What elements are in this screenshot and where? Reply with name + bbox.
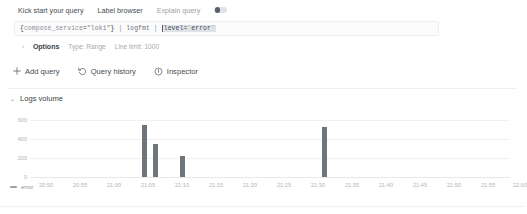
query-options-row: › Options Type: Range Line limit: 1000	[10, 40, 515, 52]
x-axis-tick: 21:55	[481, 182, 495, 188]
x-axis-tick: 21:45	[413, 182, 427, 188]
add-query-button[interactable]: Add query	[12, 67, 60, 76]
plus-icon	[12, 67, 21, 76]
chevron-right-icon[interactable]: ›	[22, 43, 24, 49]
x-axis-tick: 21:25	[277, 182, 291, 188]
query-editor-panel: Kick start your query Label browser Expl…	[10, 2, 515, 79]
query-selected-text[interactable]: level=`error`	[162, 25, 216, 32]
y-axis-tick: 600	[18, 117, 27, 123]
query-actions-row: Add query Query history	[10, 63, 515, 79]
info-circle-icon	[154, 67, 163, 76]
x-axis-tick: 21:20	[243, 182, 257, 188]
inspector-label: Inspector	[167, 67, 198, 76]
logs-volume-title: Logs volume	[20, 94, 63, 103]
chevron-down-icon[interactable]: ⌄	[10, 96, 15, 102]
query-pipe-1: |	[118, 25, 122, 32]
chart-bar[interactable]	[153, 144, 158, 177]
history-icon	[78, 67, 87, 76]
query-code: {compose_service="loki"} | logfmt | leve…	[20, 25, 216, 32]
y-axis-tick: 400	[18, 136, 27, 142]
option-query-type: Type: Range	[68, 43, 105, 50]
x-axis-tick: 20:55	[73, 182, 87, 188]
x-axis-tick: 21:40	[379, 182, 393, 188]
chart-legend: error	[10, 184, 33, 190]
x-axis-tick: 21:35	[345, 182, 359, 188]
x-axis-tick: 21:05	[141, 182, 155, 188]
chart-bar[interactable]	[142, 125, 147, 177]
explain-query-label: Explain query	[157, 6, 201, 15]
logs-volume-chart: 600 400 200 0 20:50 20:55 21:00 21:05 21…	[8, 112, 517, 194]
query-label-value: "loki"	[87, 25, 111, 32]
chart-bar[interactable]	[180, 156, 185, 177]
x-axis-tick: 21:15	[209, 182, 223, 188]
x-axis-tick: 22:00	[513, 182, 527, 188]
x-axis-tick: 21:00	[107, 182, 121, 188]
gridline: 600	[30, 120, 510, 121]
query-history-label: Query history	[91, 67, 136, 76]
panel-divider	[8, 88, 517, 89]
kick-start-query-button[interactable]: Kick start your query	[18, 6, 84, 15]
y-axis-tick: 200	[18, 155, 27, 161]
gridline: 200	[30, 158, 510, 159]
y-axis-tick: 0	[24, 174, 27, 180]
logs-volume-header[interactable]: ⌄ Logs volume	[10, 94, 63, 103]
toggle-knob	[215, 7, 221, 13]
x-axis-tick: 20:50	[39, 182, 53, 188]
explain-query-toggle[interactable]	[214, 7, 227, 14]
legend-color-swatch	[10, 186, 17, 188]
legend-item-label[interactable]: error	[21, 184, 33, 190]
query-input[interactable]: {compose_service="loki"} | logfmt | leve…	[14, 21, 439, 36]
label-browser-button[interactable]: Label browser	[98, 6, 143, 15]
chart-bar[interactable]	[322, 127, 327, 177]
add-query-label: Add query	[25, 67, 60, 76]
x-axis-tick: 21:50	[447, 182, 461, 188]
query-pipe-2: |	[154, 25, 158, 32]
chart-plot-area: 600 400 200 0 20:50 20:55 21:00 21:05 21…	[30, 120, 510, 178]
query-parser: logfmt	[126, 25, 150, 32]
x-axis-line: 0	[30, 177, 510, 178]
query-label-key: compose_service	[24, 25, 83, 32]
query-editor-toolbar: Kick start your query Label browser Expl…	[10, 2, 515, 18]
inspector-button[interactable]: Inspector	[154, 67, 198, 76]
bottom-divider	[0, 206, 525, 207]
query-history-button[interactable]: Query history	[78, 67, 136, 76]
option-line-limit: Line limit: 1000	[115, 43, 159, 50]
x-axis-tick: 21:30	[311, 182, 325, 188]
options-toggle-label[interactable]: Options	[33, 43, 59, 50]
gridline: 400	[30, 139, 510, 140]
query-brace-close: }	[111, 25, 115, 32]
x-axis-tick: 21:10	[175, 182, 189, 188]
